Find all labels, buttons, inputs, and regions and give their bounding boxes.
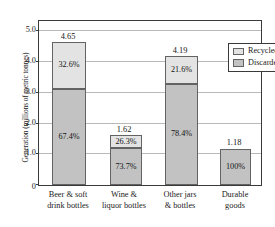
tickmark-0 [36,184,39,185]
tickmark-5 [36,30,39,31]
legend-swatch-icon-recycled [233,48,244,56]
tickmark-2 [36,123,39,124]
legend-swatch-icon-discarded [233,59,244,67]
bar-segment-discarded[interactable]: 78.4% [165,84,198,185]
stacked-bar-chart: Generation (millions of metric tonnes) 0… [0,0,275,227]
bar-segment-recycled[interactable]: 32.6% [52,42,86,89]
bar-segment-label-recycled: 32.6% [58,61,79,69]
bar-total-label-3: 1.18 [204,139,264,147]
y-tick-label-0: 0 [14,183,36,191]
bar-segment-label-discarded: 73.7% [115,163,136,171]
x-axis-label-3-line2: goods [202,201,268,212]
legend-label-recycled: Recycled [248,47,275,55]
bar-segment-recycled[interactable]: 21.6% [165,56,198,84]
tickmark-4 [36,61,39,62]
bar-total-label-2: 4.19 [150,47,210,55]
bar-segment-recycled[interactable]: 26.3% [110,135,142,148]
y-tick-label-2: 2.0 [14,119,36,127]
bar-segment-label-recycled: 26.3% [115,138,136,146]
y-tick-label-4: 4.0 [14,57,36,65]
table-row[interactable]: 73.7% 26.3% [110,135,142,185]
bar-segment-label-discarded: 100% [226,163,245,171]
bar-segment-discarded[interactable]: 100% [220,149,251,185]
table-row[interactable]: 78.4% 21.6% [165,56,198,185]
chart-legend[interactable]: Recycled Discarded [228,43,275,72]
bar-segment-label-recycled: 21.6% [171,66,192,74]
x-axis-label-3-line1: Durable [202,190,268,201]
y-tick-label-5: 5.0 [14,26,36,34]
bar-segment-label-discarded: 67.4% [58,133,79,141]
bar-segment-discarded[interactable]: 73.7% [110,148,142,185]
x-axis-label-3: Durable goods [202,190,268,211]
bar-segment-label-discarded: 78.4% [171,130,192,138]
tickmark-3 [36,92,39,93]
y-tick-label-3: 3.0 [14,88,36,96]
y-axis-tick-labels: 0 1.0 2.0 3.0 4.0 5.0 [14,0,36,227]
y-tick-label-1: 1.0 [14,149,36,157]
table-row[interactable]: 67.4% 32.6% [52,42,86,185]
bar-segment-discarded[interactable]: 67.4% [52,89,86,185]
legend-label-discarded: Discarded [248,59,275,67]
table-row[interactable]: 100% [220,149,251,185]
plot-area: 67.4% 32.6% 73.7% 26.3% 78.4% 21.6% [38,20,262,186]
bar-total-label-0: 4.65 [38,33,98,41]
legend-item-recycled[interactable]: Recycled [233,47,275,57]
tickmark-1 [36,153,39,154]
bar-total-label-1: 1.62 [94,126,154,134]
legend-item-discarded[interactable]: Discarded [233,58,275,68]
